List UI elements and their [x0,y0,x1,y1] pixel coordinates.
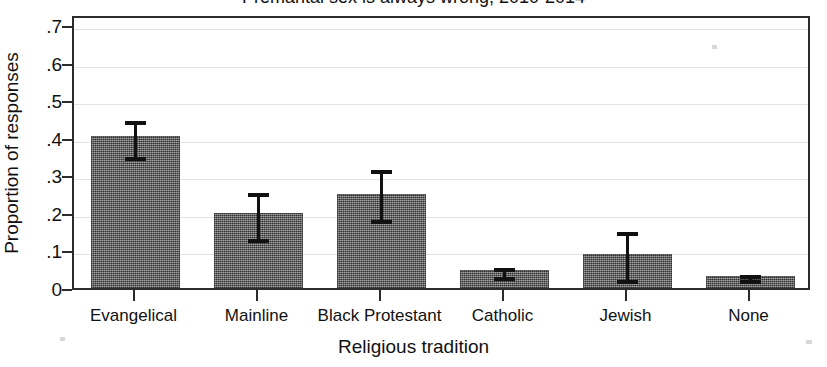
x-axis-tick-label: Catholic [472,306,533,326]
plot-area [72,16,810,290]
error-bar-cap-lower [494,277,515,281]
y-axis-tick-mark [62,101,72,103]
error-bar-cap-lower [248,239,269,243]
y-axis-tick-mark [62,214,72,216]
x-axis-tick-mark [748,290,750,301]
error-bar [370,170,394,224]
gridline [74,254,808,255]
gridline [74,67,808,68]
y-axis-tick-mark [62,289,72,291]
y-axis-tick-marks [0,16,72,290]
error-bar-stem [626,232,629,285]
error-bar-cap-lower [740,280,761,284]
y-axis-tick-mark [62,251,72,253]
y-axis-tick-mark [62,26,72,28]
x-axis-tick-mark [625,290,627,301]
x-axis-tick-label: Black Protestant [318,306,442,326]
error-bar-stem [257,193,260,244]
gridline [74,29,808,30]
x-axis-tick-labels: EvangelicalMainlineBlack ProtestantCatho… [72,306,810,330]
error-bar-cap-lower [617,280,638,284]
x-axis-tick-label: Mainline [225,306,288,326]
error-bar [247,193,271,244]
y-axis-tick-mark [62,64,72,66]
x-axis-tick-marks [72,290,810,302]
error-bar-cap-lower [371,220,392,224]
x-axis-tick-mark [502,290,504,301]
x-axis-tick-label: Evangelical [90,306,177,326]
bar-chart-figure: Premarital sex is always wrong, 2010-201… [0,0,827,367]
error-bar [616,232,640,285]
error-bar-stem [380,170,383,224]
scan-artifact [806,340,812,344]
scan-artifact [60,337,65,341]
error-bar-stem [134,121,137,160]
chart-title: Premarital sex is always wrong, 2010-201… [0,0,827,9]
x-axis-tick-mark [256,290,258,301]
y-axis-tick-mark [62,139,72,141]
gridline [74,217,808,218]
x-axis-title: Religious tradition [0,336,827,358]
gridline [74,179,808,180]
scan-artifact [712,45,717,49]
x-axis-tick-mark [379,290,381,301]
error-bar [493,268,517,281]
error-bar [124,121,148,160]
error-bar [739,275,763,284]
x-axis-tick-label: Jewish [600,306,652,326]
x-axis-tick-label: None [728,306,769,326]
plot-inner [74,18,808,288]
gridline [74,104,808,105]
error-bar-cap-lower [125,157,146,161]
x-axis-tick-mark [133,290,135,301]
y-axis-tick-mark [62,176,72,178]
gridline [74,142,808,143]
